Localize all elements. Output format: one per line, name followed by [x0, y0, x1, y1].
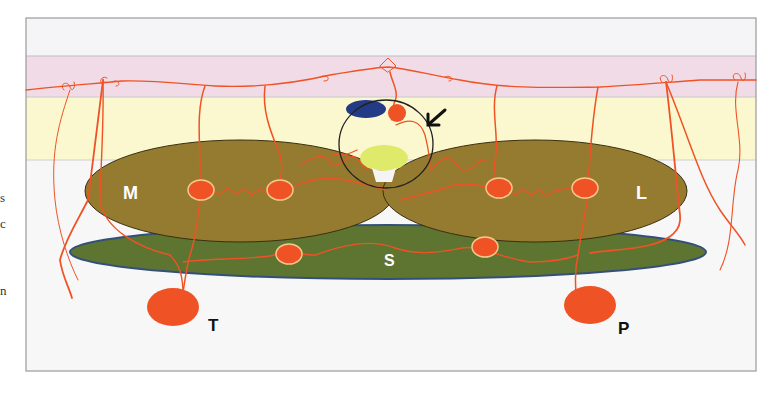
node-M-2: [267, 180, 293, 200]
node-M-1: [188, 180, 214, 200]
lime-body: [360, 145, 408, 171]
label-L: L: [636, 183, 647, 204]
node-S-1: [276, 244, 302, 264]
top-band: [26, 18, 756, 56]
node-T: [147, 288, 199, 326]
node-P: [564, 286, 616, 324]
node-S-2: [472, 237, 498, 257]
label-M: M: [123, 183, 138, 204]
red-node-callout: [388, 104, 406, 122]
anatomical-diagram: [0, 0, 775, 394]
node-L-2: [572, 178, 598, 198]
label-P: P: [618, 319, 629, 339]
node-L-1: [486, 178, 512, 198]
blue-body: [346, 100, 386, 118]
label-S: S: [384, 252, 395, 270]
label-T: T: [208, 316, 218, 336]
